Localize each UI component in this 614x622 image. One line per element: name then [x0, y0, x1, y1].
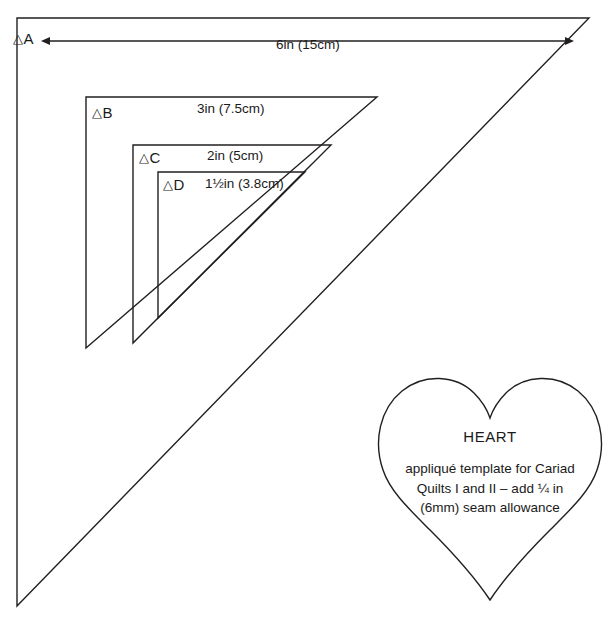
- triangle-letter-d: D: [174, 176, 185, 193]
- heart-description-line-1: appliqué template for Cariad: [375, 459, 605, 479]
- triangle-letter-b: B: [103, 104, 114, 121]
- triangle-b-tag: △B: [92, 105, 113, 120]
- heart-description: appliqué template for Cariad Quilts I an…: [375, 459, 605, 518]
- triangle-d-dimension-label: 1½in (3.8cm): [205, 177, 284, 191]
- triangle-glyph-c: △: [139, 150, 150, 165]
- triangle-a-tag: △A: [13, 31, 34, 46]
- triangle-glyph-b: △: [92, 105, 103, 120]
- triangle-glyph-d: △: [163, 177, 174, 192]
- template-drawing: [0, 0, 614, 622]
- heart-description-line-3: (6mm) seam allowance: [375, 498, 605, 518]
- triangle-letter-a: A: [24, 30, 35, 47]
- template-sheet: △A 6in (15cm) △B 3in (7.5cm) △C 2in (5cm…: [0, 0, 614, 622]
- triangle-glyph-a: △: [13, 31, 24, 46]
- triangle-c-tag: △C: [139, 150, 161, 165]
- heart-description-line-2: Quilts I and II – add ¼ in: [375, 479, 605, 499]
- triangle-d-tag: △D: [163, 177, 185, 192]
- triangle-b-dimension-label: 3in (7.5cm): [197, 102, 265, 116]
- triangle-letter-c: C: [150, 149, 161, 166]
- triangle-b-outline: [86, 97, 377, 348]
- triangle-d-outline: [158, 172, 305, 318]
- triangle-a-dimension-label: 6in (15cm): [276, 38, 340, 52]
- triangle-c-dimension-label: 2in (5cm): [207, 149, 263, 163]
- heart-title: HEART: [380, 428, 600, 445]
